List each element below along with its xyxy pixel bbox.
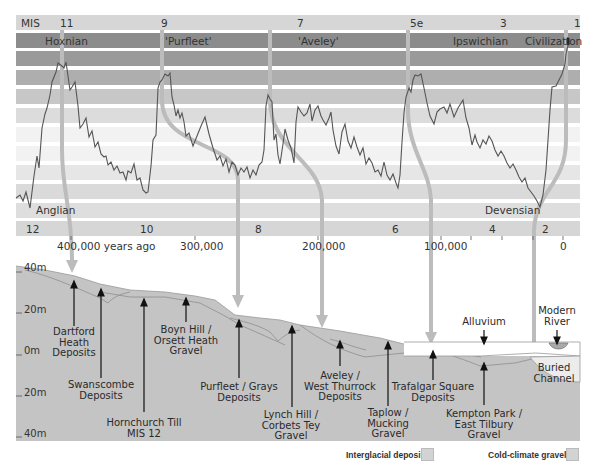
depth-label-20m-bottom: 20m bbox=[24, 387, 46, 398]
interglacial-hoxnian: Hoxnian bbox=[45, 36, 88, 47]
time-tick-100000: 100,000 bbox=[424, 241, 467, 252]
deposit-aveley-west-thurrock: Aveley / West Thurrock Deposits bbox=[300, 371, 380, 403]
deposit-dartford-heath: Dartford Heath Deposits bbox=[52, 327, 96, 359]
interglacial-aveley: 'Aveley' bbox=[298, 36, 339, 47]
mis-stage-10: 10 bbox=[140, 224, 153, 235]
depth-label-0m: 0m bbox=[24, 345, 40, 356]
interglacial-ipswichian: Ipswichian bbox=[453, 36, 508, 47]
legend-interglacial-label: Interglacial deposits bbox=[346, 450, 428, 460]
depth-label-40m-top: 40m bbox=[24, 262, 46, 273]
mis-stage-1: 1 bbox=[574, 18, 581, 29]
mis-stage-5e: 5e bbox=[410, 18, 423, 29]
deposit-modern-river: Modern River bbox=[534, 306, 580, 327]
deposit-buried-channel: Buried Channel bbox=[530, 363, 578, 384]
glacial-devensian: Devensian bbox=[485, 205, 540, 216]
mis-stage-8: 8 bbox=[255, 224, 262, 235]
mis-stage-7: 7 bbox=[297, 18, 304, 29]
legend-cold-label: Cold-climate gravels bbox=[488, 450, 571, 460]
glacial-anglian: Anglian bbox=[36, 205, 75, 216]
time-tick-300000: 300,000 bbox=[180, 241, 223, 252]
time-tick-0: 0 bbox=[560, 241, 567, 252]
depth-label-20m-top: 20m bbox=[24, 304, 46, 315]
time-tick-200000: 200,000 bbox=[302, 241, 345, 252]
deposit-trafalgar-square: Trafalgar Square Deposits bbox=[386, 382, 480, 403]
interglacial-civilization: Civilization bbox=[525, 36, 582, 47]
deposit-swanscombe: Swanscombe Deposits bbox=[66, 380, 136, 401]
deposit-taplow-mucking: Taplow / Mucking Gravel bbox=[360, 408, 416, 440]
mis-stage-4: 4 bbox=[489, 224, 496, 235]
deposit-purfleet-grays: Purfleet / Grays Deposits bbox=[195, 382, 283, 403]
time-tick-400000: 400,000 years ago bbox=[57, 241, 156, 252]
legend-cold-swatch bbox=[566, 448, 579, 461]
deposit-hornchurch-till: Hornchurch Till MIS 12 bbox=[100, 418, 188, 439]
mis-stage-11: 11 bbox=[60, 18, 73, 29]
legend-interglacial-swatch bbox=[421, 448, 434, 461]
deposit-boyn-hill: Boyn Hill / Orsett Heath Gravel bbox=[150, 325, 222, 357]
mis-label: MIS bbox=[21, 18, 40, 29]
mis-stage-12: 12 bbox=[26, 224, 39, 235]
mis-stage-2: 2 bbox=[542, 224, 549, 235]
deposit-alluvium: Alluvium bbox=[456, 317, 512, 328]
deposit-lynch-hill: Lynch Hill / Corbets Tey Gravel bbox=[258, 410, 324, 442]
mis-stage-3: 3 bbox=[500, 18, 507, 29]
interglacial-purfleet: 'Purfleet' bbox=[165, 36, 212, 47]
deposit-kempton-park: Kempton Park / East Tilbury Gravel bbox=[442, 409, 526, 441]
mis-stage-6: 6 bbox=[392, 224, 399, 235]
mis-stage-9: 9 bbox=[161, 18, 168, 29]
depth-label-40m-bottom: 40m bbox=[24, 428, 46, 439]
